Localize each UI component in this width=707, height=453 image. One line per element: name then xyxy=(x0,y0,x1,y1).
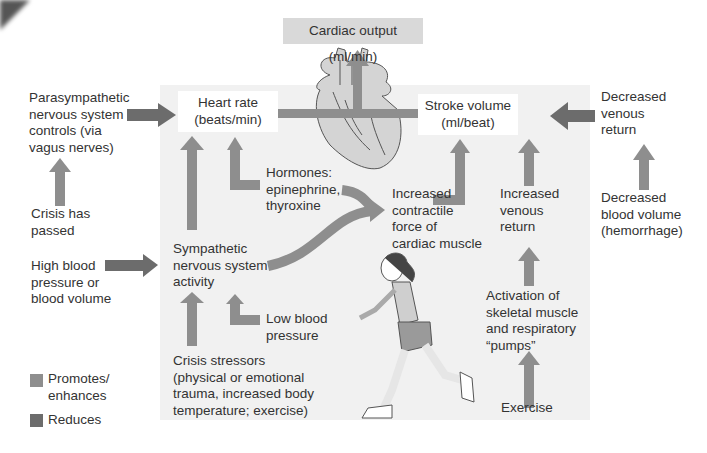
legend-reduces-label: Reduces xyxy=(48,412,101,429)
exercise-node: Exercise xyxy=(501,400,553,417)
crisis-passed-node: Crisis has passed xyxy=(31,206,90,239)
high-blood-pressure-node: High blood pressure or blood volume xyxy=(31,258,111,308)
contractile-force-node: Increased contractile force of cardiac m… xyxy=(392,186,482,252)
heart-rate-node: Heart rate (beats/min) xyxy=(178,91,278,132)
legend-promotes-label: Promotes/ enhances xyxy=(48,371,110,404)
crisis-stressors-node: Crisis stressors (physical or emotional … xyxy=(173,353,314,419)
sympathetic-node: Sympathetic nervous system activity xyxy=(173,241,268,291)
legend-promotes-swatch xyxy=(30,374,43,387)
decreased-blood-volume-node: Decreased blood volume (hemorrhage) xyxy=(601,190,683,240)
runner-illustration xyxy=(360,253,474,418)
legend-reduces-swatch xyxy=(30,414,43,427)
stroke-volume-node: Stroke volume (ml/beat) xyxy=(418,94,518,135)
cardiac-output-node: Cardiac output (ml/min) xyxy=(283,18,423,44)
activation-pumps-node: Activation of skeletal muscle and respir… xyxy=(486,288,578,354)
decreased-venous-return-node: Decreased venous return xyxy=(601,89,666,139)
hormones-node: Hormones: epinephrine, thyroxine xyxy=(266,165,340,215)
increased-venous-return-node: Increased venous return xyxy=(500,186,559,236)
low-blood-pressure-node: Low blood pressure xyxy=(266,311,328,344)
parasympathetic-node: Parasympathetic nervous system controls … xyxy=(29,90,130,156)
